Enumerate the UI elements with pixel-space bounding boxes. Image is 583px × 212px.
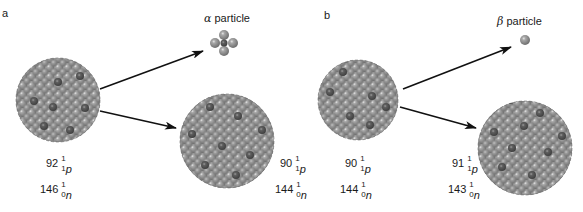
beta-symbol: β (497, 15, 503, 28)
neutron-notation: 1 0n (61, 181, 72, 199)
beta-particle-label: β particle (497, 15, 542, 28)
daughter-b-neutrons: 143 1 0n (448, 180, 480, 198)
arrow-to-daughter-a (100, 111, 176, 128)
parent-b-protons: 90 1 1p (345, 154, 371, 172)
alpha-particle-label: α particle (204, 12, 250, 25)
particle-word: particle (215, 12, 250, 24)
daughter-a-protons: 90 1 1p (280, 154, 306, 172)
proton-notation: 1 1p (467, 155, 478, 173)
proton-notation: 1 1p (360, 155, 371, 173)
neutron-notation: 1 0n (469, 181, 480, 199)
arrow-to-alpha (100, 51, 203, 89)
parent-nucleus-b (316, 58, 402, 144)
proton-notation: 1 1p (295, 155, 306, 173)
neutron-notation: 1 0n (296, 181, 307, 199)
daughter-nucleus-b (476, 96, 576, 199)
beta-particle (520, 35, 530, 45)
alpha-particle (210, 30, 238, 56)
parent-a-neutrons: 146 1 0n (40, 180, 72, 198)
arrow-to-beta (403, 47, 511, 89)
panel-label-a: a (2, 7, 8, 19)
parent-a-protons: 92 1 1p (46, 154, 72, 172)
daughter-nucleus-a (178, 92, 278, 192)
alpha-symbol: α (204, 12, 211, 25)
neutron-notation: 1 0n (361, 181, 372, 199)
parent-nucleus-a (14, 56, 104, 146)
panel-label-b: b (324, 9, 330, 21)
parent-b-neutrons: 144 1 0n (340, 180, 372, 198)
proton-notation: 1 1p (61, 155, 72, 173)
arrow-to-daughter-b (400, 107, 476, 128)
daughter-a-neutrons: 144 1 0n (275, 180, 307, 198)
particle-word: particle (506, 15, 541, 27)
daughter-b-protons: 91 1 1p (452, 154, 478, 172)
